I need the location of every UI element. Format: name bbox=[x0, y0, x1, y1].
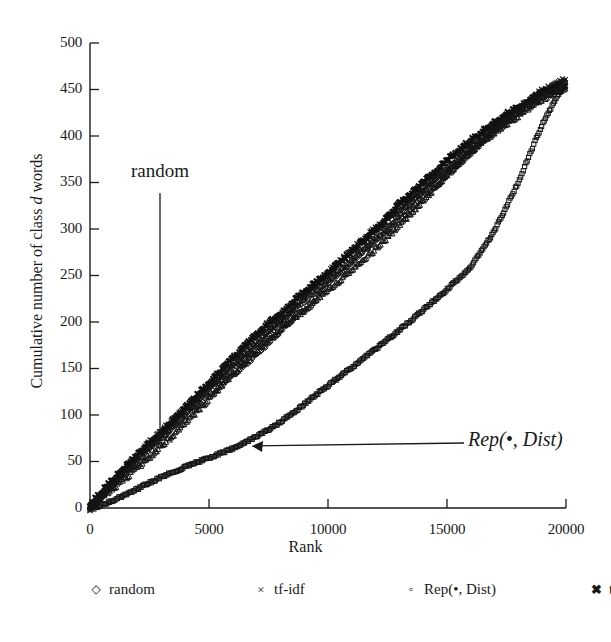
ytick-label-450: 450 bbox=[38, 80, 82, 97]
legend-marker-boldx-icon: ✖ bbox=[588, 583, 604, 596]
legend-marker-square-icon: ▫ bbox=[403, 584, 419, 595]
y-axis-ticks bbox=[90, 43, 99, 508]
legend-entry: ▫Rep(•, Dist) bbox=[403, 578, 588, 600]
ytick-label-500: 500 bbox=[38, 34, 82, 51]
xtick-label-20000: 20000 bbox=[534, 521, 598, 538]
legend: ◇random×tf-idf▫Rep(•, Dist)✖tf▵Rep(•, DI… bbox=[88, 578, 588, 600]
legend-marker-cross-icon: × bbox=[253, 583, 269, 596]
ytick-label-50: 50 bbox=[38, 452, 82, 469]
xtick-label-15000: 15000 bbox=[415, 521, 479, 538]
figure-container: 500 450 400 350 300 250 200 150 100 50 0… bbox=[0, 0, 611, 642]
annotation-leaders bbox=[160, 193, 464, 452]
xtick-label-5000: 5000 bbox=[180, 521, 238, 538]
legend-label: Rep(•, Dist) bbox=[424, 581, 496, 598]
x-axis-title: Rank bbox=[0, 538, 611, 556]
annotation-random: random bbox=[131, 160, 189, 182]
legend-entry: ◇random bbox=[88, 578, 253, 600]
legend-label: tf-idf bbox=[274, 581, 305, 598]
legend-marker-diamond-icon: ◇ bbox=[88, 583, 104, 595]
y-axis-title-prefix: Cumulative number of class bbox=[28, 205, 45, 389]
ytick-label-0: 0 bbox=[38, 499, 82, 516]
legend-label: random bbox=[109, 581, 155, 598]
y-axis-title-class-symbol: d bbox=[28, 197, 45, 205]
legend-entry: ×tf-idf bbox=[253, 578, 403, 600]
repdist-leader-line bbox=[252, 443, 464, 446]
repdist-arrowhead bbox=[252, 441, 263, 452]
x-axis-ticks bbox=[90, 499, 566, 508]
y-axis-title: Cumulative number of class d words bbox=[28, 106, 46, 436]
y-axis-title-suffix: words bbox=[28, 153, 45, 196]
xtick-label-0: 0 bbox=[66, 521, 114, 538]
annotation-rep-dist: Rep(•, Dist) bbox=[468, 428, 563, 451]
xtick-label-10000: 10000 bbox=[296, 521, 360, 538]
legend-entry: ✖tf bbox=[588, 578, 611, 600]
